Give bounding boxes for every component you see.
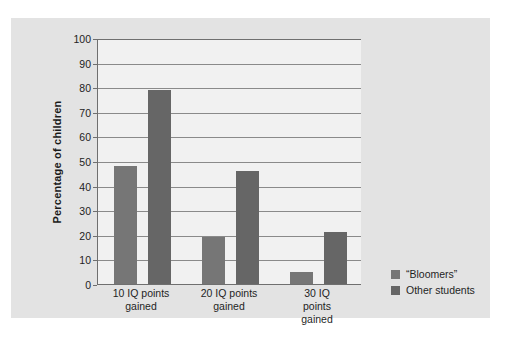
gridline	[98, 137, 361, 138]
legend-item[interactable]: “Bloomers”	[391, 268, 491, 280]
gridline	[98, 162, 361, 163]
y-axis-tick-label: 80	[65, 82, 91, 94]
legend-swatch-icon	[391, 270, 400, 279]
legend: “Bloomers”Other students	[391, 268, 491, 300]
figure-panel: Percentage of children 01020304050607080…	[11, 18, 490, 318]
x-axis-category-label: 30 IQ points gained	[295, 287, 339, 326]
plot-area	[97, 39, 361, 285]
legend-label: Other students	[406, 284, 475, 296]
gridline	[98, 260, 361, 261]
gridline	[98, 113, 361, 114]
y-axis-tick-label: 50	[65, 156, 91, 168]
y-axis-tick-labels: 0102030405060708090100	[63, 39, 91, 285]
y-axis-tick-label: 90	[65, 58, 91, 70]
y-axis-tick-label: 60	[65, 131, 91, 143]
y-axis-tick-mark	[93, 162, 97, 163]
bar	[290, 272, 313, 284]
y-axis-tick-mark	[93, 260, 97, 261]
y-axis-title-container: Percentage of children	[41, 39, 61, 285]
gridline	[98, 64, 361, 65]
y-axis-tick-label: 100	[65, 33, 91, 45]
bar	[148, 90, 171, 284]
y-axis-tick-mark	[93, 137, 97, 138]
x-axis-category-label: 20 IQ points gained	[201, 287, 258, 313]
y-axis-tick-label: 40	[65, 181, 91, 193]
y-axis-tick-mark	[93, 187, 97, 188]
y-axis-tick-mark	[93, 88, 97, 89]
y-axis-tick-mark	[93, 236, 97, 237]
y-axis-tick-label: 30	[65, 205, 91, 217]
y-axis-tick-mark	[93, 211, 97, 212]
y-axis-title: Percentage of children	[51, 101, 63, 224]
legend-item[interactable]: Other students	[391, 284, 491, 296]
y-axis-tick-mark	[93, 113, 97, 114]
gridline	[98, 39, 361, 40]
y-axis-tick-mark	[93, 39, 97, 40]
legend-swatch-icon	[391, 286, 400, 295]
bar	[236, 171, 259, 284]
y-axis-tick-label: 70	[65, 107, 91, 119]
gridline	[98, 88, 361, 89]
y-axis-tick-mark	[93, 285, 97, 286]
y-axis-tick-label: 0	[65, 279, 91, 291]
bar	[114, 166, 137, 284]
gridline	[98, 187, 361, 188]
y-axis-tick-label: 20	[65, 230, 91, 242]
gridline	[98, 236, 361, 237]
y-axis-tick-mark	[93, 64, 97, 65]
gridline	[98, 211, 361, 212]
x-axis-category-labels: 10 IQ points gained20 IQ points gained30…	[97, 287, 361, 321]
y-axis-tick-label: 10	[65, 254, 91, 266]
gridlines	[98, 39, 361, 284]
x-axis-category-label: 10 IQ points gained	[113, 287, 170, 313]
bar	[324, 232, 347, 284]
legend-label: “Bloomers”	[406, 268, 457, 280]
bar	[202, 237, 225, 284]
